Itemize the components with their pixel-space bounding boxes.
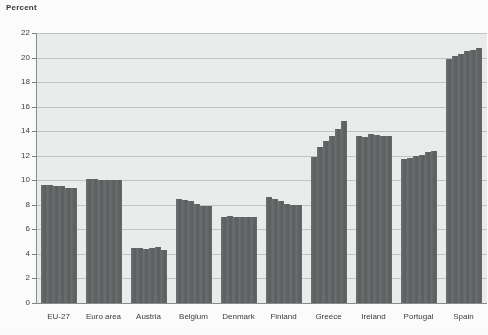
bar-group: [401, 33, 437, 303]
x-tick-label: Euro area: [86, 312, 121, 321]
bar-group: [311, 33, 347, 303]
y-tick-mark: [32, 303, 36, 304]
x-tick-label: Denmark: [222, 312, 254, 321]
y-tick-label: 8: [4, 200, 30, 209]
bar: [431, 151, 437, 303]
bar: [71, 188, 77, 303]
y-tick-label: 4: [4, 249, 30, 258]
y-tick-label: 22: [4, 28, 30, 37]
y-tick-label: 10: [4, 175, 30, 184]
bar-group: [176, 33, 212, 303]
x-tick-label: Portugal: [404, 312, 434, 321]
y-tick-label: 20: [4, 53, 30, 62]
bar-group: [221, 33, 257, 303]
bar: [161, 250, 167, 303]
y-tick-label: 18: [4, 77, 30, 86]
bar: [296, 205, 302, 303]
bar-group: [446, 33, 482, 303]
y-axis-title: Percent: [6, 3, 37, 12]
x-tick-label: Belgium: [179, 312, 208, 321]
bar: [206, 206, 212, 303]
y-tick-label: 12: [4, 151, 30, 160]
y-tick-label: 2: [4, 273, 30, 282]
bar: [386, 136, 392, 303]
bar-group: [266, 33, 302, 303]
x-tick-label: Austria: [136, 312, 161, 321]
x-tick-label: Spain: [453, 312, 473, 321]
bar-group: [131, 33, 167, 303]
bar-group: [41, 33, 77, 303]
bar: [476, 48, 482, 303]
bar-group: [356, 33, 392, 303]
y-tick-label: 0: [4, 298, 30, 307]
x-tick-label: Finland: [270, 312, 296, 321]
bar-chart-figure: Percent 0246810121416182022 EU-27Euro ar…: [0, 0, 488, 335]
x-tick-label: Ireland: [361, 312, 385, 321]
bar-group: [86, 33, 122, 303]
bars-layer: [36, 33, 486, 303]
x-tick-label: EU-27: [47, 312, 70, 321]
y-tick-label: 14: [4, 126, 30, 135]
y-tick-label: 16: [4, 102, 30, 111]
y-tick-label: 6: [4, 224, 30, 233]
bar: [341, 121, 347, 303]
x-tick-label: Greece: [315, 312, 341, 321]
bar: [251, 217, 257, 303]
bar: [116, 180, 122, 303]
